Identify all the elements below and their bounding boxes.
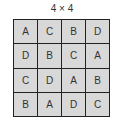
grid-cell: A [86, 44, 109, 67]
grid-cell: C [62, 44, 85, 67]
grid-cell: D [38, 69, 61, 92]
latin-square-grid: A C B D D B C A C D A B B A D C [13, 19, 110, 117]
grid-cell: D [86, 20, 109, 43]
grid-cell: A [38, 93, 61, 116]
grid-cell: B [86, 69, 109, 92]
grid-cell: B [38, 44, 61, 67]
grid-cell: C [14, 69, 37, 92]
grid-cell: D [62, 93, 85, 116]
grid-cell: B [14, 93, 37, 116]
grid-cell: A [14, 20, 37, 43]
grid-cell: A [62, 69, 85, 92]
grid-cell: D [14, 44, 37, 67]
grid-cell: B [62, 20, 85, 43]
grid-cell: C [86, 93, 109, 116]
grid-title: 4 × 4 [13, 3, 111, 15]
grid-cell: C [38, 20, 61, 43]
